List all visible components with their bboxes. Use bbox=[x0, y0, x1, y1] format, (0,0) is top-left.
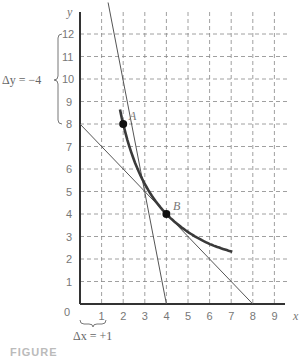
origin-label: 0 bbox=[64, 306, 70, 318]
x-tick-label: 5 bbox=[185, 310, 191, 322]
x-tick-label: 6 bbox=[207, 310, 213, 322]
y-tick-label: 2 bbox=[66, 253, 72, 265]
point-a bbox=[119, 120, 127, 128]
point-b bbox=[162, 210, 170, 218]
y-tick-label: 3 bbox=[66, 231, 72, 243]
y-tick-label: 5 bbox=[66, 186, 72, 198]
y-tick-label: 12 bbox=[62, 28, 74, 40]
y-tick-label: 6 bbox=[66, 163, 72, 175]
figure-caption: FIGURE bbox=[10, 346, 58, 358]
y-tick-label: 8 bbox=[66, 118, 72, 130]
delta-y-label: Δy = −4 bbox=[2, 73, 41, 87]
x-tick-label: 4 bbox=[163, 310, 169, 322]
y-tick-labels: 123456789101112 bbox=[62, 28, 74, 288]
curve bbox=[120, 109, 232, 251]
x-tick-labels: 123456789 bbox=[99, 310, 278, 322]
delta-y-brace bbox=[54, 34, 62, 124]
x-tick-label: 8 bbox=[250, 310, 256, 322]
x-tick-label: 3 bbox=[142, 310, 148, 322]
y-tick-label: 10 bbox=[62, 73, 74, 85]
x-tick-label: 7 bbox=[228, 310, 234, 322]
grid-lines bbox=[80, 12, 290, 304]
y-tick-label: 11 bbox=[62, 51, 73, 63]
y-tick-label: 4 bbox=[66, 208, 72, 220]
x-tick-label: 1 bbox=[99, 310, 105, 322]
x-tick-label: 2 bbox=[120, 310, 126, 322]
y-axis-label: y bbox=[66, 5, 73, 19]
y-tick-label: 7 bbox=[66, 141, 72, 153]
point-b-label: B bbox=[173, 199, 181, 213]
x-axis-label: x bbox=[292, 309, 299, 323]
y-tick-label: 9 bbox=[66, 96, 72, 108]
x-tick-label: 9 bbox=[271, 310, 277, 322]
y-tick-label: 1 bbox=[66, 276, 72, 288]
point-a-label: A bbox=[128, 109, 137, 123]
delta-x-label: Δx = +1 bbox=[73, 329, 112, 343]
